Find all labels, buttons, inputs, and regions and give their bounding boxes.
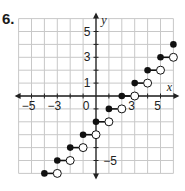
x-tick-label: −5 xyxy=(22,99,36,113)
x-axis-arrow-left-icon xyxy=(15,93,21,99)
x-axis-arrow-right-icon xyxy=(173,93,179,99)
x-tick-label: 0 xyxy=(83,99,90,113)
x-tick-label: 5 xyxy=(154,99,161,113)
closed-endpoint-dot xyxy=(170,41,177,48)
y-tick-label: −5 xyxy=(103,154,117,168)
y-axis-arrow-down-icon xyxy=(93,173,99,179)
x-axis-label: x xyxy=(166,80,173,94)
open-endpoint-circle xyxy=(131,92,139,100)
closed-endpoint-dot xyxy=(106,106,113,113)
open-endpoint-circle xyxy=(66,157,74,165)
open-endpoint-circle xyxy=(92,131,100,139)
closed-endpoint-dot xyxy=(119,93,126,100)
closed-endpoint-dot xyxy=(54,157,61,164)
open-endpoint-circle xyxy=(105,118,113,126)
y-tick-label: 3 xyxy=(84,50,91,64)
y-axis-arrow-up-icon xyxy=(93,13,99,19)
open-endpoint-circle xyxy=(79,144,87,152)
closed-endpoint-dot xyxy=(93,119,100,126)
y-tick-label: 1 xyxy=(84,76,91,90)
y-tick-label: 5 xyxy=(84,25,91,39)
open-endpoint-circle xyxy=(169,53,177,61)
closed-endpoint-dot xyxy=(144,67,151,74)
x-tick-label: 3 xyxy=(128,99,135,113)
closed-endpoint-dot xyxy=(80,131,87,138)
open-endpoint-circle xyxy=(118,105,126,113)
x-tick-label: −3 xyxy=(47,99,61,113)
closed-endpoint-dot xyxy=(157,54,164,61)
y-axis-label: y xyxy=(100,13,107,27)
closed-endpoint-dot xyxy=(131,80,138,87)
open-endpoint-circle xyxy=(144,79,152,87)
closed-endpoint-dot xyxy=(67,144,74,151)
step-function-graph: −5−3035531−5xy xyxy=(0,0,185,191)
open-endpoint-circle xyxy=(53,169,61,177)
open-endpoint-circle xyxy=(157,66,165,74)
closed-endpoint-dot xyxy=(41,170,48,177)
